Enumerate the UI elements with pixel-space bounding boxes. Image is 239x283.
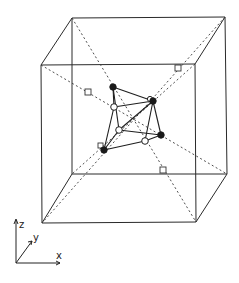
cluster-bonds [104,87,161,150]
bond [153,101,161,135]
cube-edge [195,64,196,222]
open-atom [111,104,118,111]
cube-edge [42,222,196,223]
z-axis-label: z [19,219,24,230]
coordinate-axes: z y x [14,219,62,265]
filled-atom [101,147,107,153]
vacancy-square [160,167,166,173]
defect-cluster-diagram: z y x [0,0,239,283]
y-axis [16,241,32,263]
cube-edge [195,17,225,64]
vacancy-square [85,89,91,95]
open-atom [116,127,123,134]
filled-atom [110,84,116,90]
cube-edge [41,64,195,65]
diagonal-line [72,64,195,174]
bond [119,130,161,135]
cube-edge [225,17,227,174]
cube-edge [72,17,225,18]
cube-edge [41,65,42,223]
filled-atom [158,132,164,138]
cube-edge [42,174,72,223]
x-axis-label: x [56,250,62,261]
cube-edge [41,18,72,65]
filled-atom [150,98,156,104]
cube-edge [196,174,227,222]
open-atom [142,138,149,145]
body-diagonals [41,17,227,223]
y-axis-label: y [33,232,39,243]
vacancy-square [175,65,181,71]
diagonal-line [42,17,225,223]
